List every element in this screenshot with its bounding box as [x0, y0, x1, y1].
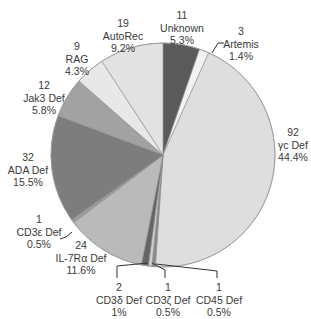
slice-label-name: ADA Def: [8, 164, 48, 177]
slice-label-pct: 44.4%: [278, 151, 308, 164]
slice-label-pct: 0.5%: [196, 306, 242, 319]
slice-label-name: Unknown: [160, 22, 204, 35]
slice-label-pct: 5.3%: [160, 34, 204, 47]
slice-label-name: γc Def: [278, 139, 308, 152]
slice-label-pct: 9.2%: [103, 42, 143, 55]
slice-label-name: AutoRec: [103, 30, 143, 43]
slice-label-pct: 5.8%: [23, 104, 64, 117]
slice-label-count: 24: [55, 239, 106, 252]
slice-label-pct: 1%: [96, 306, 142, 319]
slice-label: 24IL-7Rα Def11.6%: [55, 239, 106, 277]
leader-line-artemis: [212, 43, 224, 53]
slice-label-pct: 0.5%: [17, 238, 62, 251]
slice-label-name: CD3ζ Def: [146, 294, 191, 307]
slice-label-count: 19: [103, 17, 143, 30]
slice-label-count: 3: [223, 25, 259, 38]
slice-label: 1CD3ε Def0.5%: [17, 213, 62, 251]
slice-label-name: Jak3 Def: [23, 92, 64, 105]
slice-label: 19AutoRec9.2%: [103, 17, 143, 55]
slice-label-pct: 0.5%: [146, 306, 191, 319]
leader-line-cd3e: [60, 232, 72, 239]
slice-label-count: 11: [160, 9, 204, 22]
slice-label-name: IL-7Rα Def: [55, 252, 106, 265]
slice-label-name: CD3δ Def: [96, 294, 142, 307]
slice-label-name: Artemis: [223, 38, 259, 51]
slice-label: 3Artemis1.4%: [223, 25, 259, 63]
slice-label-count: 12: [23, 79, 64, 92]
slice-label-pct: 15.5%: [8, 176, 48, 189]
slice-label: 12Jak3 Def5.8%: [23, 79, 64, 117]
slice-label-count: 9: [65, 40, 89, 53]
slice-label-count: 1: [17, 213, 62, 226]
slice-label-pct: 1.4%: [223, 50, 259, 63]
slice-label-count: 1: [146, 281, 191, 294]
slice-label-count: 1: [196, 281, 242, 294]
slice-label-name: CD3ε Def: [17, 226, 62, 239]
slice-label: 92γc Def44.4%: [278, 126, 308, 164]
slice-label-pct: 11.6%: [55, 264, 106, 277]
slice-label: 9RAG4.3%: [65, 40, 89, 78]
slice-label: 1CD3ζ Def0.5%: [146, 281, 191, 319]
slice-label-count: 2: [96, 281, 142, 294]
slice-label-name: RAG: [65, 53, 89, 66]
slice-label-pct: 4.3%: [65, 65, 89, 78]
slice-label-count: 92: [278, 126, 308, 139]
slice-label: 1CD45 Def0.5%: [196, 281, 242, 319]
slice-label: 32ADA Def15.5%: [8, 151, 48, 189]
slice-label: 11Unknown5.3%: [160, 9, 204, 47]
slice-label-count: 32: [8, 151, 48, 164]
slice-label: 2CD3δ Def1%: [96, 281, 142, 319]
slice-label-name: CD45 Def: [196, 294, 242, 307]
